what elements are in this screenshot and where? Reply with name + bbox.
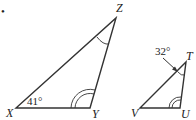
angle-u-arc-outer xyxy=(169,97,181,108)
vertex-x-label: X xyxy=(5,106,14,120)
vertex-v-label: V xyxy=(131,106,140,120)
angle-z-arc xyxy=(97,37,109,44)
geometry-figure: • 41° X Y Z 32° V U T xyxy=(0,0,196,120)
angle-t-label: 32° xyxy=(155,45,170,57)
triangle-vut-outline xyxy=(140,62,186,108)
angle-x-label: 41° xyxy=(27,95,42,107)
vertex-y-label: Y xyxy=(92,107,100,120)
bullet-marker: • xyxy=(1,5,5,17)
vertex-z-label: Z xyxy=(116,1,123,15)
vertex-t-label: T xyxy=(186,49,194,63)
triangle-xyz: 41° X Y Z xyxy=(5,1,123,120)
vertex-u-label: U xyxy=(181,107,191,120)
triangle-vut: 32° V U T xyxy=(131,45,194,120)
